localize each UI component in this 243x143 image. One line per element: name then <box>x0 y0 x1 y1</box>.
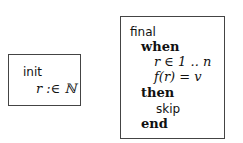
final-keyword: final <box>130 24 156 40</box>
init-keyword: init <box>23 64 42 80</box>
init-action: r :∈ ℕ <box>36 81 76 97</box>
guard-1: r ∈ 1 .. n <box>154 54 211 70</box>
init-event-box: init r :∈ ℕ <box>8 54 81 106</box>
guard-2: f(r) = v <box>154 69 202 85</box>
final-event-box: final when r ∈ 1 .. n f(r) = v then skip… <box>120 16 225 139</box>
end-keyword: end <box>141 116 168 132</box>
skip-action: skip <box>156 101 180 117</box>
then-keyword: then <box>141 85 174 101</box>
when-keyword: when <box>141 39 179 55</box>
